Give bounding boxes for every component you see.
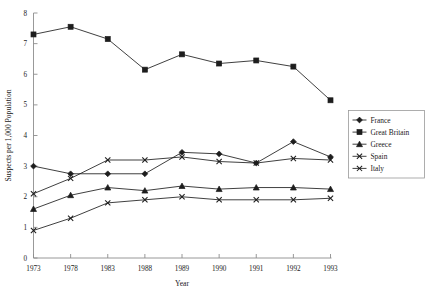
series-line-italy bbox=[34, 197, 331, 231]
legend-label: Great Britain bbox=[371, 128, 410, 137]
y-tick-label: 7 bbox=[23, 40, 27, 48]
series-line-great-britain bbox=[34, 27, 331, 101]
x-tick-label: 1993 bbox=[323, 265, 338, 273]
x-tick-label: 1989 bbox=[175, 265, 190, 273]
marker-great-britain-1992 bbox=[291, 64, 296, 69]
legend-marker-square bbox=[357, 130, 362, 135]
x-tick-label: 1990 bbox=[212, 265, 227, 273]
marker-great-britain-1993 bbox=[328, 98, 333, 103]
marker-france-1992 bbox=[290, 139, 296, 145]
marker-great-britain-1983 bbox=[105, 37, 110, 42]
marker-greece-1973 bbox=[31, 206, 37, 211]
series-markers bbox=[31, 24, 334, 233]
line-chart-svg: 012345678 197319781983198819891990199119… bbox=[0, 0, 427, 294]
y-tick-label: 5 bbox=[23, 101, 27, 109]
y-axis-ticks: 012345678 bbox=[23, 10, 37, 263]
marker-great-britain-1990 bbox=[217, 61, 222, 66]
marker-france-1988 bbox=[142, 171, 148, 177]
y-tick-label: 1 bbox=[23, 224, 27, 232]
y-tick-label: 2 bbox=[23, 193, 27, 201]
marker-great-britain-1989 bbox=[180, 52, 185, 57]
legend-label: France bbox=[371, 116, 392, 125]
x-tick-label: 1983 bbox=[101, 265, 116, 273]
x-tick-label: 1991 bbox=[249, 265, 264, 273]
legend-label: Italy bbox=[371, 164, 385, 173]
axes bbox=[34, 13, 332, 258]
y-tick-label: 4 bbox=[23, 132, 27, 140]
marker-great-britain-1973 bbox=[31, 32, 36, 37]
x-tick-label: 1978 bbox=[63, 265, 78, 273]
x-tick-label: 1992 bbox=[286, 265, 301, 273]
chart-legend: FranceGreat BritainGreeceSpainItaly bbox=[349, 111, 425, 179]
chart-figure: 012345678 197319781983198819891990199119… bbox=[0, 0, 427, 294]
x-tick-label: 1973 bbox=[26, 265, 41, 273]
marker-france-1983 bbox=[105, 171, 111, 177]
y-tick-label: 6 bbox=[23, 71, 27, 79]
series-line-greece bbox=[34, 186, 331, 209]
legend-label: Greece bbox=[371, 140, 393, 149]
x-tick-label: 1988 bbox=[138, 265, 153, 273]
legend-label: Spain bbox=[371, 152, 388, 161]
y-axis-label: Suspects per 1,000 Population bbox=[4, 89, 13, 181]
series-lines bbox=[34, 27, 331, 231]
marker-great-britain-1991 bbox=[254, 58, 259, 63]
y-tick-label: 3 bbox=[23, 163, 27, 171]
y-tick-label: 0 bbox=[23, 255, 27, 263]
marker-france-1973 bbox=[31, 163, 37, 169]
marker-france-1993 bbox=[328, 154, 334, 160]
marker-italy-1978 bbox=[68, 216, 73, 221]
marker-great-britain-1988 bbox=[142, 67, 147, 72]
marker-greece-1983 bbox=[105, 185, 111, 190]
x-axis-ticks: 197319781983198819891990199119921993 bbox=[26, 254, 338, 273]
series-line-france bbox=[34, 142, 331, 174]
marker-france-1990 bbox=[216, 151, 222, 157]
x-axis-label: Year bbox=[175, 279, 189, 288]
marker-greece-1989 bbox=[179, 183, 185, 188]
marker-great-britain-1978 bbox=[68, 24, 73, 29]
y-tick-label: 8 bbox=[23, 10, 27, 18]
